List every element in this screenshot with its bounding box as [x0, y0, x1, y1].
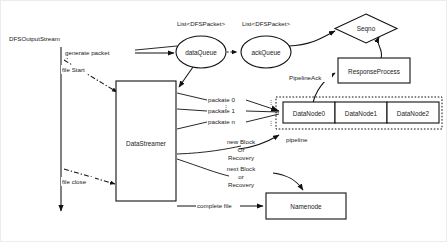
packate-n-line-b [246, 114, 279, 122]
pipeline-label: pipeline [286, 136, 308, 143]
response-process-label: ResponseProcess [348, 68, 400, 76]
packate-0-label: packate 0 [208, 96, 235, 103]
packate-n-label: packate n [208, 118, 235, 125]
file-close-label: file close [62, 178, 87, 185]
file-start-arrow [64, 60, 117, 92]
packate-1-line-b [246, 111, 279, 112]
complete-file-label: complete file [197, 202, 232, 209]
ack-queue-type-label: List<DFSPacket> [242, 20, 291, 27]
packate-1-line-a [177, 109, 207, 111]
pipeline-ack-label: PipelineAck [289, 74, 322, 81]
generate-packet-label: generate packet [65, 49, 110, 56]
packate-1-label: packate 1 [208, 107, 235, 114]
namenode-label: Namenode [290, 203, 322, 210]
ack-queue-label: ackQueue [251, 49, 281, 57]
dfs-output-stream-label: DFSOutputStream [9, 35, 60, 42]
ack-queue-to-seqno-arrow [289, 31, 335, 46]
packate-0-line-b [246, 100, 279, 111]
response-process-to-seqno-arrow [378, 37, 382, 58]
new-block-line [177, 146, 241, 154]
new-block-label-line1: new Block [227, 138, 256, 145]
packate-ellipsis-left: ⋮ [223, 104, 229, 110]
datanode0-label: DataNode0 [293, 110, 326, 117]
hdfs-write-pipeline-diagram: DFSOutputStream generate packet file Sta… [1, 1, 447, 242]
new-block-label-line3: Recovery [228, 154, 255, 161]
diagram-canvas: DFSOutputStream generate packet file Sta… [0, 0, 447, 242]
packate-0-line-a [177, 93, 207, 100]
data-queue-type-label: List<DFSPacket> [177, 20, 226, 27]
data-queue-label: dataQueue [185, 49, 217, 57]
next-block-arrow-to-namenode [273, 173, 303, 190]
datanode1-label: DataNode1 [345, 110, 378, 117]
file-start-label: file Start [62, 66, 85, 73]
next-block-label-line2: or [238, 173, 244, 180]
new-block-label-line2: Or [238, 146, 245, 153]
seqno-label: Seqno [357, 25, 376, 33]
packate-ellipsis-right-bottom: ⋮ [268, 120, 274, 126]
data-queue-to-data-streamer-arrow [179, 67, 193, 87]
next-block-label-line1: next Block [227, 165, 256, 172]
packate-ellipsis-right-top: ⋮ [268, 99, 274, 105]
next-block-label-line3: Recovery [228, 181, 255, 188]
data-streamer-label: DataStreamer [126, 140, 167, 147]
next-block-line-left [177, 159, 229, 176]
datanode2-label: DataNode2 [397, 110, 430, 117]
packate-n-line-a [177, 122, 207, 129]
